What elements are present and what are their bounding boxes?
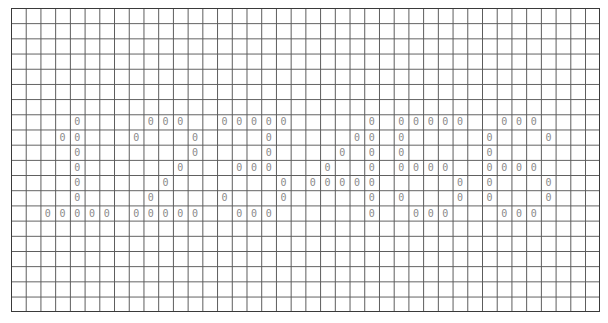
- grid-cell-digit: 0: [453, 175, 468, 190]
- grid-cell-digit: 0: [394, 145, 409, 160]
- grid-cell-digit: 0: [70, 190, 85, 205]
- grid-cell-digit: 0: [438, 114, 453, 129]
- grid-cell-digit: 0: [394, 114, 409, 129]
- grid-cell-digit: 0: [217, 190, 232, 205]
- grid-cell-digit: 0: [438, 160, 453, 175]
- grid-cell-digit: 0: [335, 175, 350, 190]
- grid-cell-digit: 0: [276, 190, 291, 205]
- grid-cell-digit: 0: [364, 160, 379, 175]
- grid-cell-digit: 0: [512, 114, 527, 129]
- grid-cell-digit: 0: [453, 114, 468, 129]
- grid-cell-digit: 0: [173, 114, 188, 129]
- grid-cell-digit: 0: [144, 114, 159, 129]
- grid-cell-digit: 0: [394, 160, 409, 175]
- grid-cell-digit: 0: [55, 130, 70, 145]
- grid-cell-digit: 0: [497, 206, 512, 221]
- grid-cell-digit: 0: [350, 130, 365, 145]
- grid-cell-digit: 0: [364, 206, 379, 221]
- grid-cell-digit: 0: [526, 206, 541, 221]
- grid-cell-digit: 0: [70, 160, 85, 175]
- grid-cell-digit: 0: [261, 130, 276, 145]
- grid-cell-digit: 0: [232, 160, 247, 175]
- grid-cell-digit: 0: [70, 114, 85, 129]
- grid-cell-digit: 0: [188, 206, 203, 221]
- grid-cell-digit: 0: [232, 206, 247, 221]
- grid-cell-digit: 0: [247, 160, 262, 175]
- grid-cell-digit: 0: [453, 190, 468, 205]
- grid-cell-digit: 0: [40, 206, 55, 221]
- grid-cell-digit: 0: [261, 145, 276, 160]
- grid-cell-digit: 0: [482, 160, 497, 175]
- grid-cell-digit: 0: [394, 190, 409, 205]
- grid-cell-digit: 0: [423, 206, 438, 221]
- grid-cell-digit: 0: [173, 206, 188, 221]
- grid-cell-digit: 0: [85, 206, 100, 221]
- grid-cell-digit: 0: [394, 130, 409, 145]
- grid-cell-digit: 0: [261, 206, 276, 221]
- grid-cell-digit: 0: [482, 190, 497, 205]
- grid-cell-digit: 0: [99, 206, 114, 221]
- grid-cell-digit: 0: [158, 206, 173, 221]
- grid-cell-digit: 0: [320, 175, 335, 190]
- grid-cell-digit: 0: [541, 175, 556, 190]
- grid-cell-digit: 0: [232, 114, 247, 129]
- grid-cell-digit: 0: [364, 190, 379, 205]
- grid-cell-digit: 0: [261, 114, 276, 129]
- grid-cell-digit: 0: [482, 130, 497, 145]
- grid-cell-digit: 0: [409, 206, 424, 221]
- grid-cell-digit: 0: [276, 175, 291, 190]
- grid-cell-digit: 0: [409, 114, 424, 129]
- grid-cell-digit: 0: [526, 114, 541, 129]
- grid-cell-digit: 0: [261, 160, 276, 175]
- grid-cell-digit: 0: [335, 145, 350, 160]
- grid-cell-digit: 0: [70, 130, 85, 145]
- grid-cell-digit: 0: [526, 160, 541, 175]
- grid-cell-digit: 0: [497, 160, 512, 175]
- grid-cell-digit: 0: [70, 206, 85, 221]
- grid-cell-digit: 0: [306, 175, 321, 190]
- grid-cell-digit: 0: [158, 114, 173, 129]
- grid-cell-digit: 0: [350, 175, 365, 190]
- grid-cell-digit: 0: [364, 175, 379, 190]
- grid-cell-digit: 0: [129, 130, 144, 145]
- grid-cell-digit: 0: [70, 145, 85, 160]
- grid-cell-digit: 0: [512, 206, 527, 221]
- grid-cell-digit: 0: [276, 114, 291, 129]
- grid-cell-digit: 0: [55, 206, 70, 221]
- grid-cell-digit: 0: [497, 114, 512, 129]
- grid-cell-digit: 0: [144, 206, 159, 221]
- grid-cell-digit: 0: [247, 114, 262, 129]
- grid-cell-digit: 0: [247, 206, 262, 221]
- grid-cell-digit: 0: [188, 145, 203, 160]
- grid-cell-digit: 0: [482, 145, 497, 160]
- grid-cell-digit: 0: [438, 206, 453, 221]
- grid-cell-digit: 0: [512, 160, 527, 175]
- grid-cell-digit: 0: [423, 160, 438, 175]
- grid-cell-digit: 0: [129, 206, 144, 221]
- grid-cell-digit: 0: [409, 160, 424, 175]
- grid-cell-digit: 0: [144, 190, 159, 205]
- grid-cell-digit: 0: [541, 130, 556, 145]
- grid-cell-digit: 0: [70, 175, 85, 190]
- grid-cell-digit: 0: [188, 130, 203, 145]
- grid-paper: 0000000000000000000000000000000000000000…: [11, 8, 600, 312]
- grid-cell-digit: 0: [541, 190, 556, 205]
- grid-cell-digit: 0: [217, 114, 232, 129]
- grid-cell-digit: 0: [364, 145, 379, 160]
- grid-cell-digit: 0: [364, 114, 379, 129]
- grid-cell-digit: 0: [158, 175, 173, 190]
- grid-cell-digit: 0: [364, 130, 379, 145]
- grid-cell-digit: 0: [173, 160, 188, 175]
- grid-cell-digit: 0: [320, 160, 335, 175]
- grid-cell-digit: 0: [423, 114, 438, 129]
- grid-cell-digit: 0: [482, 175, 497, 190]
